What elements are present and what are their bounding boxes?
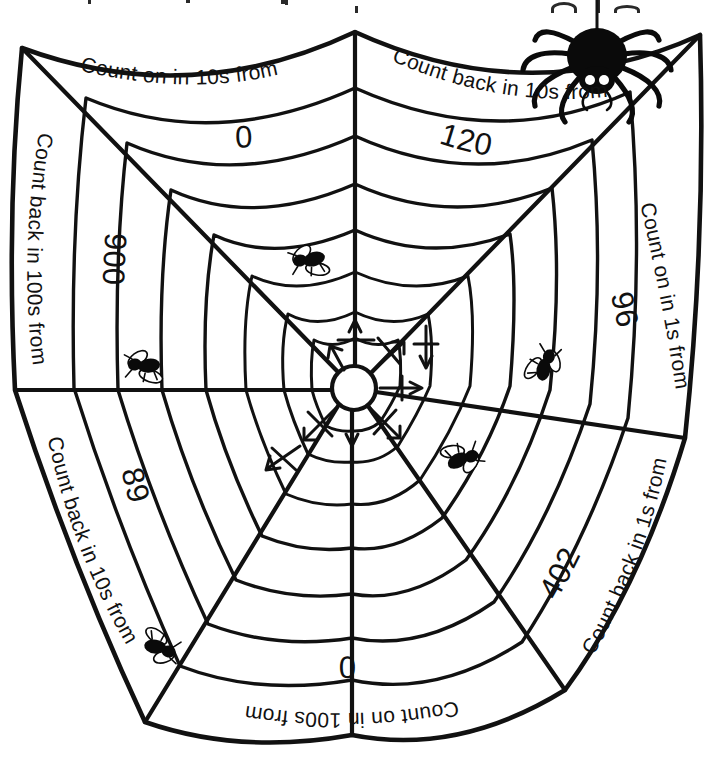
web-spoke-upper-left: [22, 48, 338, 372]
spider-web-diagram: Count on in 10s from 0 Count back in 10s…: [0, 0, 710, 757]
sector-label-top-left: Count on in 10s from: [79, 52, 280, 88]
sector-label-left-upper: Count back in 100s from: [23, 132, 58, 367]
spider-leg-r1: [619, 32, 659, 42]
sector-value-bottom: 0: [338, 649, 356, 684]
arrow-lower-right: [368, 406, 400, 438]
spider-leg-l2: [523, 53, 570, 70]
sector-value-left-lower: 89: [114, 464, 157, 507]
sector-label-right-upper: Count on in 1s from: [636, 200, 694, 390]
web-spoke-lower-right: [368, 406, 565, 690]
web-hub-circle: [332, 366, 376, 410]
sector-value-top-left: 0: [234, 119, 253, 155]
sector-label-right-lower: Count back in 1s from: [577, 455, 671, 657]
flies-group: [122, 237, 567, 669]
arrow-down-right: [414, 326, 438, 368]
worksheet-page: Count on in 10s from 0 Count back in 10s…: [0, 0, 710, 757]
sector-value-right-upper: 96: [604, 289, 646, 331]
fly-5: [139, 624, 183, 669]
fly-3: [520, 341, 566, 386]
arrow-up: [338, 320, 374, 358]
sector-value-left-upper: 900: [96, 232, 134, 286]
sector-value-top-right: 120: [436, 116, 495, 163]
sector-value-right-lower: 402: [532, 542, 587, 605]
web-spoke-right: [376, 392, 685, 438]
spider-leg-l1: [535, 32, 575, 42]
arrow-down: [346, 412, 358, 446]
web-spoke-lower-left: [145, 406, 338, 722]
fly-2: [122, 345, 166, 390]
